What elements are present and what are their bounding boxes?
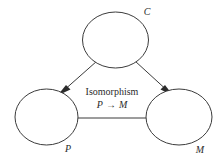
node-c-label: C: [144, 6, 151, 17]
edge-p-to-m-caption: Isomorphism P→M: [86, 86, 139, 110]
isomorphism-diagram: C P M Isomorphism P→M: [0, 0, 222, 164]
node-p: P: [15, 89, 78, 154]
node-c: C: [83, 6, 151, 68]
node-p-ellipse: [15, 89, 78, 145]
node-c-ellipse: [83, 12, 149, 68]
node-p-label: P: [64, 143, 71, 154]
edge-caption-title: Isomorphism: [86, 86, 139, 97]
diagram-canvas: C P M Isomorphism P→M: [0, 0, 222, 164]
node-m-label: M: [195, 144, 205, 155]
edge-c-to-m-line: [135, 61, 165, 88]
node-m: M: [146, 89, 212, 155]
right-arrow-icon: →: [106, 99, 116, 110]
node-m-ellipse: [146, 89, 212, 145]
edge-caption-mapping-target: M: [118, 99, 128, 110]
edge-c-to-p-line: [67, 61, 98, 88]
edge-caption-mapping-source: P: [96, 99, 103, 110]
edge-caption-mapping: P→M: [96, 99, 128, 110]
